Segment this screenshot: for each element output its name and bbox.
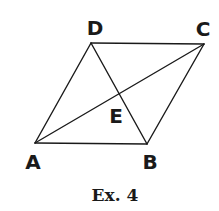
diagonal-db: [91, 43, 147, 144]
edge-da: [35, 43, 91, 143]
vertex-label-d: D: [87, 18, 104, 38]
edge-ab: [35, 143, 147, 144]
vertex-label-a: A: [25, 152, 40, 172]
edge-bc: [147, 44, 204, 144]
figure-caption: Ex. 4: [92, 187, 139, 204]
edge-cd: [91, 43, 204, 44]
parallelogram-diagram: D C A B E Ex. 4: [0, 0, 219, 211]
intersection-label-e: E: [109, 106, 123, 126]
vertex-label-c: C: [196, 19, 211, 39]
vertex-label-b: B: [142, 152, 157, 172]
